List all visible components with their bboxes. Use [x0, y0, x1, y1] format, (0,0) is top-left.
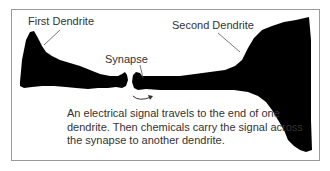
first-dendrite-label: First Dendrite	[28, 15, 94, 27]
first-dendrite-leader	[44, 30, 60, 45]
second-dendrite-leader	[218, 33, 240, 52]
curved-arrow-icon	[133, 95, 153, 100]
synapse-label: Synapse	[105, 53, 148, 65]
second-dendrite-label: Second Dendrite	[172, 19, 254, 31]
diagram-caption: An electrical signal travels to the end …	[67, 107, 307, 148]
